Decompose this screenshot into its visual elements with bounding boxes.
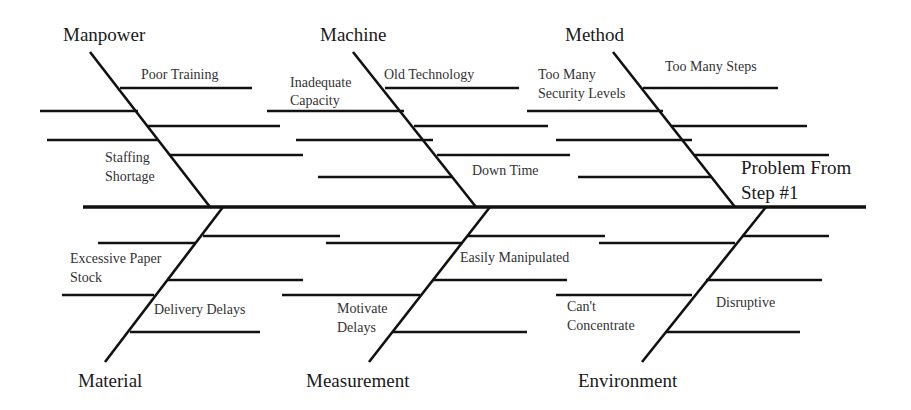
cause-too-many-security-levels: Too Many Security Levels: [538, 67, 625, 102]
problem-statement: Problem From Step #1: [741, 156, 851, 205]
cause-old-technology: Old Technology: [384, 67, 474, 83]
cause-staffing-shortage: Staffing Shortage: [105, 150, 155, 185]
cause-line-2: Concentrate: [567, 318, 635, 334]
cause-line-1: Can't: [567, 299, 635, 315]
cause-line-1: Motivate: [337, 301, 388, 317]
cause-line-2: Security Levels: [538, 86, 625, 102]
category-label-method: Method: [565, 24, 624, 46]
cause-line-1: Excessive Paper: [70, 251, 161, 267]
cause-line-1: Too Many: [538, 67, 625, 83]
fishbone-diagram: Manpower Machine Method Material Measure…: [0, 0, 911, 410]
cause-inadequate-capacity: Inadequate Capacity: [290, 75, 351, 109]
cause-line-1: Staffing: [105, 150, 155, 166]
cause-poor-training: Poor Training: [141, 67, 218, 83]
problem-line-2: Step #1: [741, 181, 851, 206]
cause-motivate-delays: Motivate Delays: [337, 301, 388, 336]
cause-line-2: Capacity: [290, 93, 351, 109]
cause-cant-concentrate: Can't Concentrate: [567, 299, 635, 334]
cause-easily-manipulated: Easily Manipulated: [460, 250, 569, 266]
cause-down-time: Down Time: [472, 163, 539, 179]
cause-line-2: Stock: [70, 270, 161, 286]
cause-line-1: Inadequate: [290, 75, 351, 91]
cause-too-many-steps: Too Many Steps: [665, 59, 757, 75]
bone-method: [613, 52, 735, 207]
category-label-machine: Machine: [320, 24, 386, 46]
rib-lines: [40, 88, 829, 332]
bone-environment: [642, 207, 766, 362]
cause-delivery-delays: Delivery Delays: [154, 302, 245, 318]
cause-disruptive: Disruptive: [716, 295, 775, 311]
category-label-measurement: Measurement: [306, 370, 409, 392]
category-label-manpower: Manpower: [63, 24, 145, 46]
cause-excessive-paper-stock: Excessive Paper Stock: [70, 251, 161, 286]
problem-line-1: Problem From: [741, 156, 851, 181]
cause-line-2: Shortage: [105, 169, 155, 185]
bone-measurement: [369, 207, 490, 362]
category-label-material: Material: [78, 370, 142, 392]
category-label-environment: Environment: [578, 370, 677, 392]
cause-line-2: Delays: [337, 320, 388, 336]
